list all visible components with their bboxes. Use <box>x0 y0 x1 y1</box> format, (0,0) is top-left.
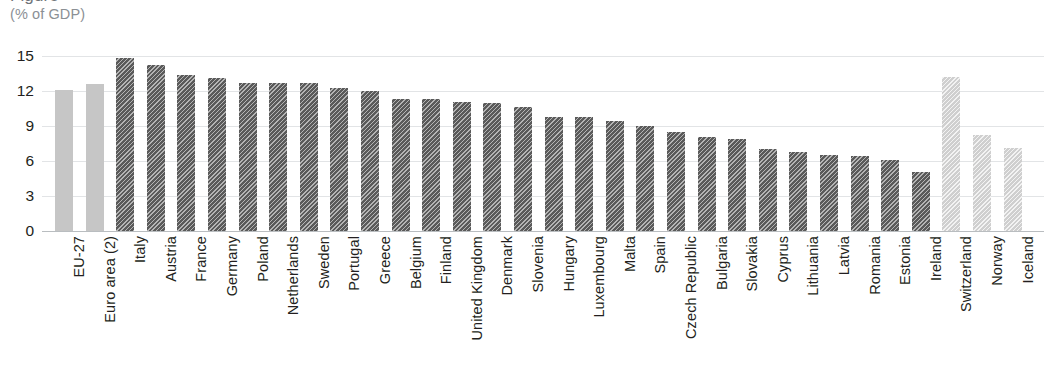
x-axis-labels: EU-27Euro area (2)ItalyAustriaFranceGerm… <box>42 236 1044 387</box>
bar <box>973 135 991 231</box>
y-axis-tick-label: 9 <box>0 118 34 134</box>
x-axis-tick-label: Ireland <box>927 236 945 386</box>
x-axis-tick-label: Slovakia <box>743 236 761 386</box>
x-axis-tick-label: EU-27 <box>70 236 88 386</box>
chart-header: Figure (% of GDP) <box>0 0 1050 42</box>
y-axis-tick-label: 12 <box>0 83 34 99</box>
x-axis-tick-label: Czech Republic <box>682 236 700 386</box>
bar <box>453 102 471 232</box>
y-axis-tick-label: 3 <box>0 188 34 204</box>
bar <box>789 152 807 231</box>
bar <box>361 91 379 231</box>
bar <box>422 99 440 231</box>
x-axis-tick-label: Netherlands <box>284 236 302 386</box>
x-axis-tick-label: Hungary <box>560 236 578 386</box>
x-axis-tick-label: Malta <box>621 236 639 386</box>
bar <box>606 121 624 231</box>
x-axis-tick-label: Luxembourg <box>590 236 608 386</box>
bar <box>881 160 899 231</box>
x-axis-tick-label: Denmark <box>498 236 516 386</box>
bar <box>300 83 318 231</box>
bar <box>759 149 777 231</box>
x-axis-tick-label: Estonia <box>896 236 914 386</box>
bar <box>239 83 257 231</box>
x-axis-tick-label: Iceland <box>1019 236 1037 386</box>
x-axis-tick-label: Switzerland <box>957 236 975 386</box>
y-axis-tick-label: 6 <box>0 153 34 169</box>
bar <box>728 139 746 231</box>
x-axis-tick-label: Euro area (2) <box>101 236 119 386</box>
x-axis-tick-label: Lithuania <box>804 236 822 386</box>
bar <box>942 77 960 231</box>
bar <box>514 107 532 231</box>
bar <box>483 103 501 231</box>
bar <box>86 84 104 231</box>
bar <box>177 75 195 231</box>
y-axis-tick-label: 0 <box>0 223 34 239</box>
bar <box>208 78 226 231</box>
bar <box>851 156 869 231</box>
bar <box>545 117 563 231</box>
bar <box>912 172 930 232</box>
x-axis-tick-label: Slovenia <box>529 236 547 386</box>
chart-plot-area <box>42 56 1044 231</box>
x-axis-tick-label: Belgium <box>407 236 425 386</box>
bar <box>116 58 134 231</box>
x-axis-tick-label: Austria <box>162 236 180 386</box>
x-axis-tick-label: Greece <box>376 236 394 386</box>
y-axis-labels: 03691215 <box>0 56 34 231</box>
bar <box>575 117 593 231</box>
x-axis-tick-label: Cyprus <box>774 236 792 386</box>
bar <box>392 99 410 231</box>
x-axis-tick-label: Bulgaria <box>713 236 731 386</box>
x-axis-tick-label: Spain <box>651 236 669 386</box>
bar <box>820 155 838 231</box>
chart-subtitle: (% of GDP) <box>10 6 85 22</box>
bar <box>147 65 165 231</box>
x-axis-tick-label: Sweden <box>315 236 333 386</box>
x-axis-tick-label: France <box>192 236 210 386</box>
y-axis-tick-label: 15 <box>0 48 34 64</box>
x-axis-tick-label: Romania <box>866 236 884 386</box>
x-axis-tick-label: Norway <box>988 236 1006 386</box>
x-axis-tick-label: Latvia <box>835 236 853 386</box>
x-axis-tick-label: Germany <box>223 236 241 386</box>
x-axis-tick-label: United Kingdom <box>468 236 486 386</box>
x-axis-tick-label: Finland <box>437 236 455 386</box>
axis-baseline <box>42 231 1044 232</box>
bar <box>667 132 685 231</box>
bar <box>330 88 348 232</box>
bar <box>1004 148 1022 231</box>
bar <box>269 83 287 231</box>
bar <box>698 137 716 232</box>
bar <box>636 126 654 231</box>
x-axis-tick-label: Portugal <box>345 236 363 386</box>
x-axis-tick-label: Poland <box>254 236 272 386</box>
x-axis-tick-label: Italy <box>131 236 149 386</box>
bar <box>55 90 73 231</box>
gridline <box>42 56 1044 57</box>
